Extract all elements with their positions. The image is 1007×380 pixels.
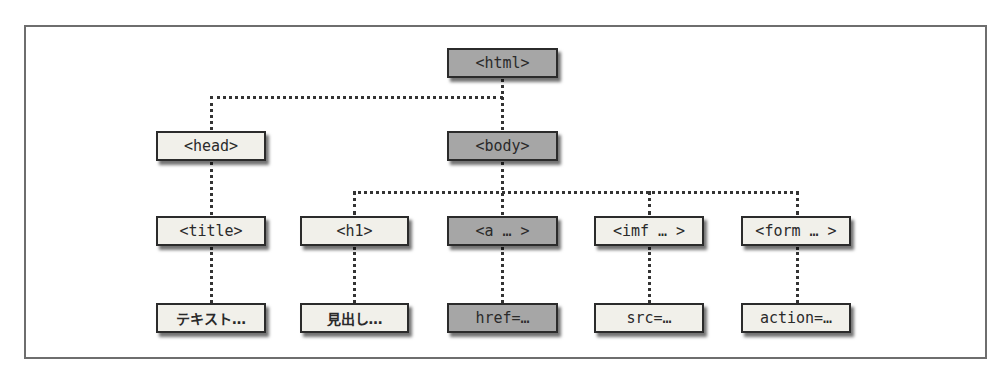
- connector-body-down: [501, 162, 504, 215]
- node-head: <head>: [156, 131, 266, 161]
- node-label: <body>: [475, 137, 529, 155]
- connector-title-text: [210, 247, 213, 303]
- connector-head-title: [210, 162, 213, 215]
- node-title: <title>: [156, 216, 266, 246]
- node-h1: <h1>: [300, 216, 409, 246]
- node-label: <head>: [184, 137, 238, 155]
- node-action: action=…: [741, 303, 851, 333]
- node-label: <html>: [475, 54, 529, 72]
- node-label: 見出し…: [327, 308, 383, 328]
- node-heading-text: 見出し…: [300, 303, 409, 333]
- node-html: <html>: [447, 48, 558, 78]
- connector-form-action: [796, 247, 799, 303]
- node-label: <h1>: [336, 222, 372, 240]
- node-label: <a … >: [475, 222, 529, 240]
- connector-to-imf: [648, 191, 651, 215]
- connector-to-head: [210, 96, 213, 130]
- node-imf: <imf … >: [594, 216, 704, 246]
- node-a: <a … >: [447, 216, 558, 246]
- node-label: <title>: [179, 222, 242, 240]
- connector-imf-src: [648, 247, 651, 303]
- connector-html-head-horizontal: [210, 96, 503, 99]
- node-label: テキスト…: [176, 308, 246, 328]
- node-label: <imf … >: [613, 222, 685, 240]
- connector-to-h1: [353, 191, 356, 215]
- node-label: <form … >: [755, 222, 836, 240]
- node-href: href=…: [447, 303, 558, 333]
- node-label: action=…: [760, 309, 832, 327]
- node-body: <body>: [447, 131, 558, 161]
- connector-html-down: [501, 79, 504, 130]
- node-src: src=…: [594, 303, 704, 333]
- connector-body-children-horizontal: [353, 191, 799, 194]
- node-label: src=…: [626, 309, 671, 327]
- node-label: href=…: [475, 309, 529, 327]
- connector-to-form: [796, 191, 799, 215]
- node-text: テキスト…: [156, 303, 266, 333]
- node-form: <form … >: [741, 216, 851, 246]
- connector-h1-heading: [353, 247, 356, 303]
- connector-a-href: [501, 247, 504, 303]
